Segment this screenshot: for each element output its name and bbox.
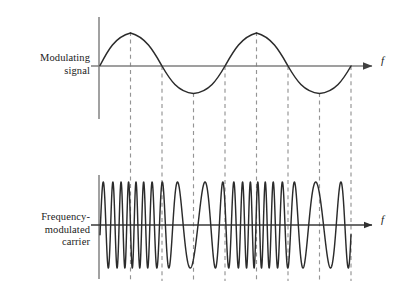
frequency-axis-label-top: f: [381, 54, 384, 66]
modulating-signal-label: Modulating signal: [8, 52, 90, 77]
fm-carrier-panel: [91, 175, 372, 279]
modulating-signal-panel: [91, 17, 372, 119]
fm-carrier-label: Frequency- modulated carrier: [8, 211, 90, 249]
frequency-axis-label-bottom: f: [381, 213, 384, 225]
fm-modulation-figure: [0, 0, 407, 300]
